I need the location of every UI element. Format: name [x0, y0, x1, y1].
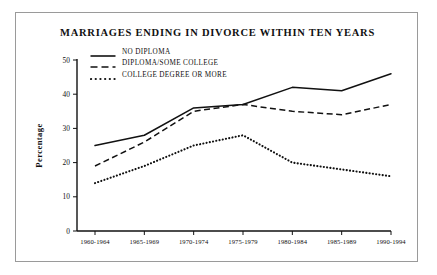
series-line-solid	[95, 74, 391, 146]
y-axis-tick-label: 40	[63, 90, 71, 99]
y-axis-tick-label: 50	[63, 56, 71, 65]
x-axis-tick-label: 1990-1994	[376, 238, 406, 245]
chart-plot-area: 01020304050 1960-19641965-19691970-19741…	[16, 13, 419, 263]
x-axis-tick-label: 1965-1969	[130, 238, 160, 245]
x-axis-tick-label: 1985-1989	[327, 238, 357, 245]
x-axis-tick-label: 1960-1964	[80, 238, 110, 245]
x-axis: 1960-19641965-19691970-19741975-19791980…	[77, 231, 406, 245]
y-axis-title: Percentage	[34, 123, 44, 167]
series-line-dotted	[95, 135, 391, 183]
x-axis-tick-label: 1970-1974	[179, 238, 209, 245]
x-axis-tick-label: 1975-1979	[228, 238, 258, 245]
chart-figure-frame: MARRIAGES ENDING IN DIVORCE WITHIN TEN Y…	[15, 12, 418, 262]
x-axis-tick-label: 1980-1984	[278, 238, 308, 245]
chart-series-group	[95, 74, 391, 183]
y-axis-tick-label: 0	[66, 227, 70, 236]
y-axis-tick-label: 20	[63, 158, 71, 167]
y-axis-tick-label: 30	[63, 124, 71, 133]
y-axis-tick-label: 10	[63, 192, 71, 201]
y-axis-title-text: Percentage	[34, 123, 44, 167]
y-axis: 01020304050	[63, 56, 77, 236]
